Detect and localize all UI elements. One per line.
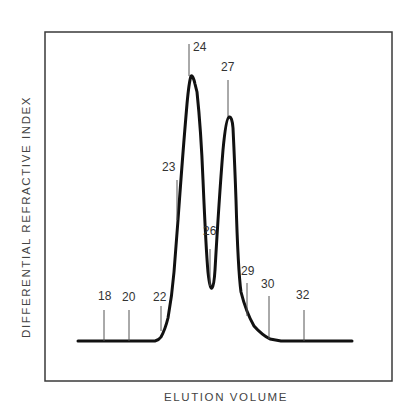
marker-label-22: 22 — [153, 290, 167, 304]
marker-label-29: 29 — [241, 264, 255, 278]
y-axis-label: DIFFERENTIAL REFRACTIVE INDEX — [20, 96, 32, 338]
chromatogram-trace — [78, 76, 352, 341]
marker-label-18: 18 — [98, 289, 112, 303]
marker-label-24: 24 — [193, 40, 207, 54]
marker-label-32: 32 — [296, 288, 310, 302]
marker-label-26: 26 — [203, 224, 217, 238]
x-axis-label: ELUTION VOLUME — [164, 391, 288, 403]
marker-label-23: 23 — [162, 160, 176, 174]
marker-label-20: 20 — [122, 290, 136, 304]
marker-label-27: 27 — [221, 60, 235, 74]
marker-label-30: 30 — [261, 277, 275, 291]
chromatogram-chart: 18 20 22 23 24 26 27 29 30 32 DIFFERENTI… — [0, 0, 412, 414]
